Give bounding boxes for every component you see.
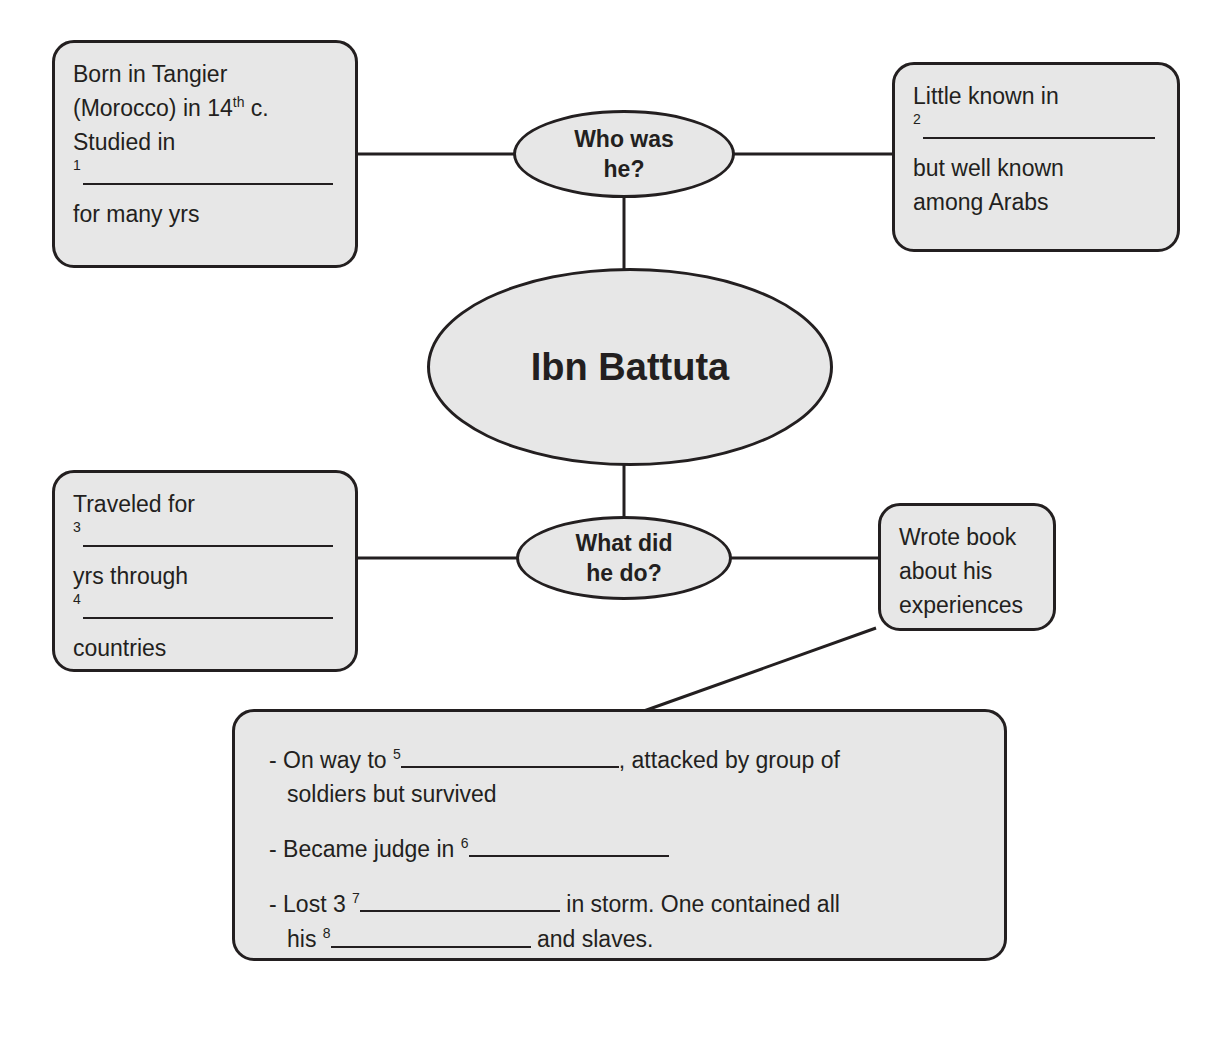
traveled-blank-4-rule xyxy=(83,617,333,619)
traveled-blank-3-number: 3 xyxy=(73,519,81,535)
born-blank-1-number: 1 xyxy=(73,157,81,173)
detail-bullet-1: - On way to 5, attacked by group of sold… xyxy=(269,742,970,811)
born-line-2-b: c. xyxy=(244,95,268,121)
detail-3-second-prefix: his xyxy=(287,927,323,953)
born-blank-1[interactable]: 1 xyxy=(73,159,339,197)
little-line-2: but well known xyxy=(913,151,1161,185)
little-line-3: among Arabs xyxy=(913,185,1161,219)
traveled-line-3: countries xyxy=(73,631,339,665)
little-line-1: Little known in xyxy=(913,79,1161,113)
connector-wrote-to-details xyxy=(641,628,876,712)
box-born-in-tangier: Born in Tangier (Morocco) in 14th c. Stu… xyxy=(52,40,358,268)
detail-2-blank-number: 6 xyxy=(461,836,469,852)
ellipse-who-was-he: Who was he? xyxy=(513,110,735,198)
born-line-2-a: (Morocco) in 14 xyxy=(73,95,233,121)
born-line-3: Studied in xyxy=(73,125,339,159)
detail-3-second-blank[interactable] xyxy=(331,921,531,947)
who-label: Who was he? xyxy=(574,124,674,184)
ellipse-what-did-he-do: What did he do? xyxy=(516,516,732,600)
detail-bullet-2: - Became judge in 6 xyxy=(269,831,970,866)
little-blank-2-number: 2 xyxy=(913,111,921,127)
detail-3-prefix: - Lost 3 xyxy=(269,891,352,917)
born-blank-1-rule xyxy=(83,183,333,185)
what-label: What did he do? xyxy=(575,528,672,588)
born-line-4: for many yrs xyxy=(73,197,339,231)
page-top-bleed-artifact xyxy=(0,0,1230,18)
little-blank-2-rule xyxy=(923,137,1155,139)
who-label-line-1: Who was xyxy=(574,124,674,154)
detail-3-blank[interactable] xyxy=(360,886,560,912)
box-traveled-for: Traveled for 3 yrs through 4 countries xyxy=(52,470,358,672)
detail-1-blank-number: 5 xyxy=(393,746,401,762)
who-label-line-2: he? xyxy=(574,154,674,184)
born-line-1: Born in Tangier xyxy=(73,57,339,91)
what-label-line-2: he do? xyxy=(575,558,672,588)
detail-bullet-3: - Lost 3 7 in storm. One contained all h… xyxy=(269,886,970,956)
box-wrote-book: Wrote book about his experiences xyxy=(878,503,1056,631)
traveled-blank-4-number: 4 xyxy=(73,591,81,607)
born-line-2: (Morocco) in 14th c. xyxy=(73,91,339,125)
traveled-line-2: yrs through xyxy=(73,559,339,593)
wrote-line-3: experiences xyxy=(899,588,1037,622)
detail-1-blank[interactable] xyxy=(401,742,619,768)
detail-3-second-blank-number: 8 xyxy=(323,926,331,942)
detail-3-blank-number: 7 xyxy=(352,891,360,907)
detail-2-prefix: - Became judge in xyxy=(269,836,461,862)
detail-1-suffix: , attacked by group of xyxy=(619,747,840,773)
mind-map-canvas: Born in Tangier (Morocco) in 14th c. Stu… xyxy=(0,0,1230,1039)
what-label-line-1: What did xyxy=(575,528,672,558)
detail-3-second-line: his 8 and slaves. xyxy=(287,921,970,956)
traveled-blank-3[interactable]: 3 xyxy=(73,521,339,559)
wrote-line-2: about his xyxy=(899,554,1037,588)
traveled-line-1: Traveled for xyxy=(73,487,339,521)
detail-1-prefix: - On way to xyxy=(269,747,393,773)
born-line-2-superscript: th xyxy=(233,94,245,110)
ellipse-center-ibn-battuta: Ibn Battuta xyxy=(427,268,833,466)
detail-3-second-suffix: and slaves. xyxy=(531,927,654,953)
box-details: - On way to 5, attacked by group of sold… xyxy=(232,709,1007,961)
little-blank-2[interactable]: 2 xyxy=(913,113,1161,151)
detail-1-second-line: soldiers but survived xyxy=(287,777,970,811)
detail-2-blank[interactable] xyxy=(469,831,669,857)
box-little-known: Little known in 2 but well known among A… xyxy=(892,62,1180,252)
wrote-line-1: Wrote book xyxy=(899,520,1037,554)
traveled-blank-3-rule xyxy=(83,545,333,547)
center-label: Ibn Battuta xyxy=(531,346,729,389)
traveled-blank-4[interactable]: 4 xyxy=(73,593,339,631)
detail-3-suffix: in storm. One contained all xyxy=(560,891,840,917)
